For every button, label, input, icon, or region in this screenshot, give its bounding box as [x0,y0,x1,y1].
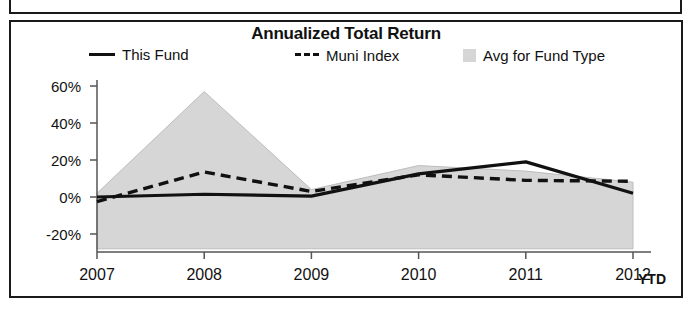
x-axis-tick-label: 2009 [294,266,330,284]
x-axis-ytd-label: YTD [638,271,666,287]
annualized-total-return-panel: Annualized Total Return This Fund Muni I… [9,20,683,298]
x-axis-tick-labels: 200720082009201020112012 [11,22,685,300]
plot-area: -20%0%20%40%60% 200720082009201020112012… [11,22,685,300]
x-axis-tick-label: 2011 [509,266,543,284]
x-axis-tick-label: 2008 [186,266,222,284]
x-axis-tick-label: 2010 [401,266,437,284]
top-cropped-panel [9,0,682,14]
x-axis-tick-label: 2007 [79,266,115,284]
